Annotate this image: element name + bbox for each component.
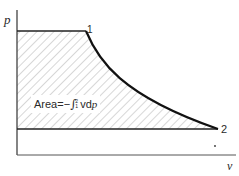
x-axis-label: v xyxy=(227,160,232,172)
integrand: vd xyxy=(80,98,92,110)
integral-sign: ∫ xyxy=(70,97,76,111)
pv-diagram-canvas xyxy=(0,0,239,176)
y-axis-label: p xyxy=(4,13,11,26)
area-label: Area=− ∫ 2 1 vdp xyxy=(31,95,100,113)
area-prefix: Area=− xyxy=(34,98,70,110)
marker-dot xyxy=(214,145,216,147)
point-2-label: 2 xyxy=(221,124,227,135)
integration-variable: p xyxy=(92,98,98,110)
point-1-label: 1 xyxy=(87,25,93,35)
hatched-area xyxy=(17,31,218,129)
